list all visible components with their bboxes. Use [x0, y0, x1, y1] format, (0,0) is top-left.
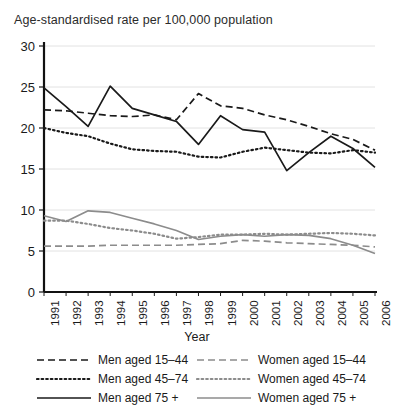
x-axis-tick-label: 2006 [380, 300, 392, 326]
legend-label: Men aged 75 + [98, 391, 178, 405]
x-axis-tick-label: 1993 [93, 300, 105, 326]
x-axis-tick-label: 1992 [71, 300, 83, 326]
legend-line-swatch-icon [196, 393, 252, 403]
series-line [44, 211, 375, 254]
y-axis-tick-label: 25 [21, 80, 35, 95]
plot-svg: 051015202530 [0, 36, 394, 298]
legend-item[interactable]: Men aged 45–74 [36, 371, 188, 387]
legend-item[interactable]: Men aged 75 + [36, 390, 188, 406]
x-axis-title: Year [0, 330, 394, 344]
y-axis-tick-label: 30 [21, 39, 35, 54]
legend-item[interactable]: Women aged 15–44 [196, 352, 366, 368]
legend-item[interactable]: Women aged 45–74 [196, 371, 366, 387]
legend-label: Men aged 45–74 [98, 372, 188, 386]
legend-column-men: Men aged 15–44Men aged 45–74Men aged 75 … [36, 352, 188, 408]
legend-line-swatch-icon [36, 355, 92, 365]
legend-line-swatch-icon [36, 374, 92, 384]
series-line [44, 240, 375, 247]
series-line [44, 94, 375, 151]
x-axis-tick-label: 2001 [270, 300, 282, 326]
legend-line-swatch-icon [196, 374, 252, 384]
y-axis-tick-label: 5 [28, 244, 35, 259]
legend-label: Women aged 15–44 [258, 353, 366, 367]
legend-label: Men aged 15–44 [98, 353, 188, 367]
x-axis-tick-label: 2002 [292, 300, 304, 326]
y-axis-tick-label: 20 [21, 121, 35, 136]
x-axis-tick-label: 1991 [49, 300, 61, 326]
x-axis-tick-label: 2000 [248, 300, 260, 326]
chart-title: Age-standardised rate per 100,000 popula… [14, 13, 273, 27]
y-axis-tick-label: 10 [21, 203, 35, 218]
legend-line-swatch-icon [36, 393, 92, 403]
chart-legend: Men aged 15–44Men aged 45–74Men aged 75 … [0, 352, 394, 408]
legend-line-swatch-icon [196, 355, 252, 365]
series-line [44, 221, 375, 239]
y-axis-tick-label: 15 [21, 162, 35, 177]
legend-column-women: Women aged 15–44Women aged 45–74Women ag… [196, 352, 366, 408]
x-axis-tick-label: 1996 [159, 300, 171, 326]
legend-item[interactable]: Women aged 75 + [196, 390, 366, 406]
x-axis-tick-label: 1998 [203, 300, 215, 326]
x-axis-tick-label: 1999 [226, 300, 238, 326]
x-axis-tick-label: 1997 [181, 300, 193, 326]
x-axis-tick-label: 1995 [137, 300, 149, 326]
legend-label: Women aged 75 + [258, 391, 356, 405]
chart-page: Age-standardised rate per 100,000 popula… [0, 0, 394, 408]
plot-area: 051015202530 [0, 36, 394, 298]
x-axis-tick-label: 2004 [336, 300, 348, 326]
x-axis-tick-label: 2005 [358, 300, 370, 326]
legend-label: Women aged 45–74 [258, 372, 366, 386]
x-axis-tick-label: 2003 [314, 300, 326, 326]
legend-item[interactable]: Men aged 15–44 [36, 352, 188, 368]
x-axis-tick-label: 1994 [115, 300, 127, 326]
